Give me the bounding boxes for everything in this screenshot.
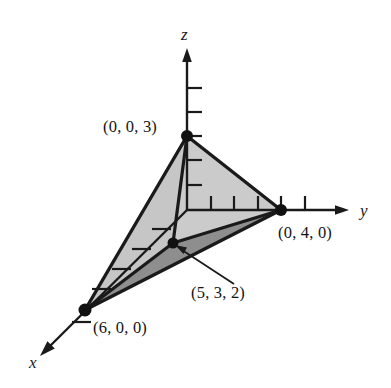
coordinate-diagram: z y x (0, 0, 3) (0, 4, 0) (6, 0, 0) (5, … (0, 0, 391, 388)
point-label-x-intercept: (6, 0, 0) (93, 318, 147, 337)
point-label-interior-point: (5, 3, 2) (191, 283, 245, 302)
dot-z-intercept (181, 130, 193, 142)
arrowhead-y (335, 205, 349, 215)
point-label-y-intercept: (0, 4, 0) (278, 223, 332, 242)
dot-interior-point (168, 238, 179, 249)
leader-line-interior-point (182, 250, 234, 284)
arrowhead-z (182, 48, 192, 62)
figure-container: z y x (0, 0, 3) (0, 4, 0) (6, 0, 0) (5, … (0, 0, 391, 388)
point-label-z-intercept: (0, 0, 3) (103, 117, 157, 136)
axis-label-x: x (28, 353, 37, 372)
dot-x-intercept (79, 304, 92, 317)
dot-y-intercept (275, 204, 287, 216)
axis-label-z: z (180, 25, 188, 44)
axis-label-y: y (358, 201, 368, 220)
